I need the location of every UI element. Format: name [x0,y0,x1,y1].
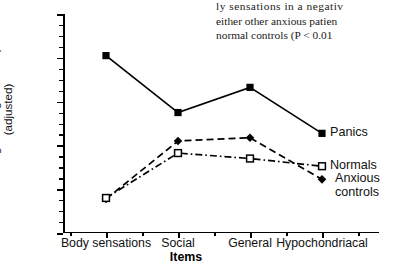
y-axis-title: Mean rankings for negative interpretatio… [0,0,16,219]
legend-label-anxious-controls-line-2: controls [335,185,379,199]
legend-label-anxious-controls-line-1: Anxious [335,171,380,185]
y-axis-tick-minor [59,80,63,81]
y-axis-tick-major [57,14,63,16]
y-axis-tick-minor [59,200,63,201]
plot-area [63,14,379,233]
y-axis-tick-major [57,145,63,147]
y-axis-tick-minor [59,113,63,114]
y-axis-tick-major [57,189,63,191]
y-axis-tick-minor [59,124,63,125]
y-axis-tick-minor [59,69,63,70]
x-axis-tick-label: Hypochondriacal [242,236,402,250]
x-axis-line [63,232,379,234]
y-axis-tick-minor [59,36,63,37]
y-axis-tick-minor [59,91,63,92]
y-axis-tick-minor [59,156,63,157]
y-axis-title-line-2: (adjusted) [1,0,14,219]
y-axis-line [63,14,65,233]
legend-label-panics: Panics [330,125,368,139]
y-axis-tick-minor [59,178,63,179]
y-axis-tick-minor [59,211,63,212]
y-axis-tick-major [57,58,63,60]
y-axis-tick-minor [59,222,63,223]
article-text-line-1: ly sensations in a negativ [216,0,407,14]
y-axis-tick-minor [59,25,63,26]
y-axis-tick-minor [59,167,63,168]
y-axis-tick-major [57,102,63,104]
legend-label-normals: Normals [330,158,377,172]
x-axis-title: Items [106,250,266,264]
figure-panel: ly sensations in a negativ either other … [0,0,407,272]
y-axis-tick-minor [59,134,63,135]
y-axis-tick-major [57,233,63,235]
y-axis-tick-minor [59,47,63,48]
